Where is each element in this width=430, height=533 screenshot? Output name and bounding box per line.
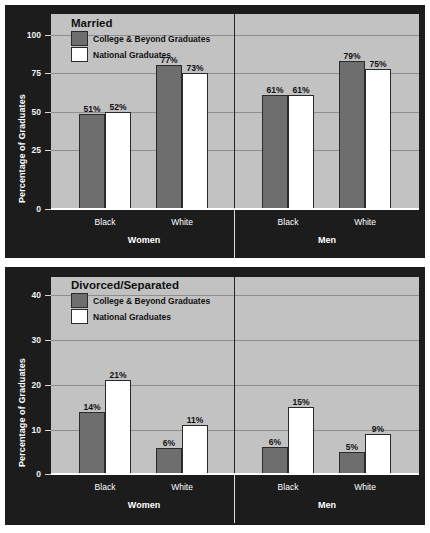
y-tick-50 bbox=[45, 112, 51, 113]
y-tick-label-100: 100 bbox=[11, 31, 41, 40]
bar-women-black-college: 14% bbox=[79, 412, 105, 475]
y-tick-40 bbox=[45, 295, 51, 296]
group-label-women: Women bbox=[128, 500, 160, 510]
bar-value: 21% bbox=[109, 370, 126, 380]
chart-panel-divorced-separated: Percentage of Graduates 14% 21% 6% 11% bbox=[5, 267, 425, 525]
bar-value: 79% bbox=[343, 51, 360, 61]
bar-value: 15% bbox=[292, 397, 309, 407]
x-label-men-black: Black bbox=[278, 217, 299, 227]
bar-value: 14% bbox=[83, 402, 100, 412]
y-tick-10 bbox=[45, 430, 51, 431]
figure-two-bar-charts: Percentage of Graduates 51% 52% 77% 73% bbox=[0, 0, 430, 533]
bar-men-white-national: 9% bbox=[365, 434, 391, 475]
footer-divider-line bbox=[234, 475, 235, 523]
chart-panel-married: Percentage of Graduates 51% 52% 77% 73% bbox=[5, 5, 425, 258]
group-divider-line bbox=[234, 14, 235, 210]
bar-value: 51% bbox=[83, 104, 100, 114]
bar-women-black-college: 51% bbox=[79, 114, 105, 210]
x-label-men-white: White bbox=[354, 217, 376, 227]
legend-swatch-national-icon bbox=[71, 47, 88, 62]
bar-women-black-national: 52% bbox=[105, 112, 131, 210]
bar-men-black-national: 15% bbox=[288, 407, 314, 475]
bar-men-white-college: 5% bbox=[339, 452, 365, 475]
y-tick-label-75: 75 bbox=[11, 69, 41, 78]
legend-swatch-national-icon bbox=[71, 309, 88, 324]
legend-item-national: National Graduates bbox=[71, 309, 210, 324]
legend-item-college: College & Beyond Graduates bbox=[71, 293, 210, 308]
footer-divider-line bbox=[234, 210, 235, 258]
bar-women-white-national: 73% bbox=[182, 73, 208, 210]
bar-value: 9% bbox=[372, 424, 384, 434]
y-tick-label-25: 25 bbox=[11, 146, 41, 155]
y-tick-label-10: 10 bbox=[11, 426, 41, 435]
group-divider-line bbox=[234, 277, 235, 475]
legend-label-college: College & Beyond Graduates bbox=[93, 296, 210, 306]
y-tick-30 bbox=[45, 340, 51, 341]
bar-women-white-national: 11% bbox=[182, 425, 208, 475]
x-label-women-black: Black bbox=[95, 482, 116, 492]
bar-value: 6% bbox=[269, 437, 281, 447]
legend-swatch-college-icon bbox=[71, 293, 88, 308]
y-tick-20 bbox=[45, 385, 51, 386]
chart-title-married: Married bbox=[71, 17, 210, 29]
bar-value: 75% bbox=[369, 59, 386, 69]
legend-swatch-college-icon bbox=[71, 31, 88, 46]
x-label-women-black: Black bbox=[95, 217, 116, 227]
bar-value: 73% bbox=[186, 63, 203, 73]
legend-label-national: National Graduates bbox=[93, 312, 171, 322]
bar-men-white-college: 79% bbox=[339, 61, 365, 210]
x-label-women-white: White bbox=[171, 217, 193, 227]
bar-men-white-national: 75% bbox=[365, 69, 391, 210]
chart-title-divorced-separated: Divorced/Separated bbox=[71, 279, 210, 291]
legend-label-national: National Graduates bbox=[93, 50, 171, 60]
y-tick-0 bbox=[45, 474, 51, 475]
gridline-30 bbox=[51, 340, 419, 341]
x-axis-baseline bbox=[51, 473, 419, 475]
bar-men-black-national: 61% bbox=[288, 95, 314, 210]
y-tick-label-40: 40 bbox=[11, 291, 41, 300]
bar-value: 61% bbox=[266, 85, 283, 95]
y-tick-label-30: 30 bbox=[11, 336, 41, 345]
bar-value: 5% bbox=[346, 442, 358, 452]
y-tick-label-0: 0 bbox=[11, 205, 41, 214]
group-label-men: Men bbox=[318, 500, 336, 510]
y-tick-25 bbox=[45, 150, 51, 151]
bar-value: 52% bbox=[109, 102, 126, 112]
legend-label-college: College & Beyond Graduates bbox=[93, 34, 210, 44]
bar-women-white-college: 6% bbox=[156, 448, 182, 475]
y-tick-100 bbox=[45, 35, 51, 36]
legend-married: Married College & Beyond Graduates Natio… bbox=[71, 17, 210, 63]
bar-men-black-college: 61% bbox=[262, 95, 288, 210]
y-tick-label-20: 20 bbox=[11, 381, 41, 390]
y-tick-label-50: 50 bbox=[11, 108, 41, 117]
x-label-women-white: White bbox=[171, 482, 193, 492]
legend-item-college: College & Beyond Graduates bbox=[71, 31, 210, 46]
bar-value: 6% bbox=[163, 438, 175, 448]
legend-item-national: National Graduates bbox=[71, 47, 210, 62]
y-tick-label-0: 0 bbox=[11, 470, 41, 479]
x-label-men-white: White bbox=[354, 482, 376, 492]
bar-value: 11% bbox=[187, 415, 204, 425]
legend-divorced-separated: Divorced/Separated College & Beyond Grad… bbox=[71, 279, 210, 325]
y-tick-75 bbox=[45, 73, 51, 74]
x-axis-baseline bbox=[51, 208, 419, 210]
y-tick-0 bbox=[45, 209, 51, 210]
bar-women-black-national: 21% bbox=[105, 380, 131, 475]
bar-value: 61% bbox=[292, 85, 309, 95]
bar-men-black-college: 6% bbox=[262, 447, 288, 475]
group-label-women: Women bbox=[128, 235, 160, 245]
bar-women-white-college: 77% bbox=[156, 65, 182, 210]
x-label-men-black: Black bbox=[278, 482, 299, 492]
group-label-men: Men bbox=[318, 235, 336, 245]
y-axis-title-bottom: Percentage of Graduates bbox=[17, 358, 27, 467]
